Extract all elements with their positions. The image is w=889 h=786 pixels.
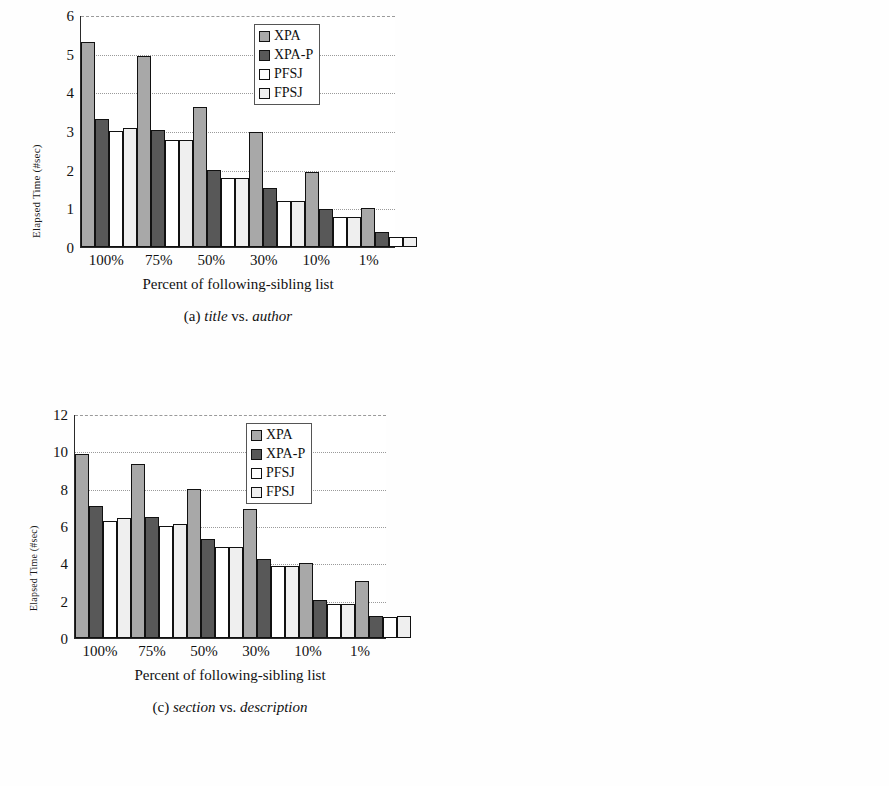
x-axis-title-a: Percent of following-sibling list <box>64 276 412 293</box>
y-tick-label: 2 <box>61 594 69 609</box>
x-tick-label: 30% <box>238 252 291 269</box>
bar <box>327 604 341 638</box>
x-tick-label: 50% <box>178 643 230 660</box>
legend-swatch-icon <box>251 449 262 460</box>
bar-groups <box>81 16 395 247</box>
bar <box>187 489 201 638</box>
bar <box>257 559 271 638</box>
y-tick-label: 1 <box>67 202 75 217</box>
x-axis-title-c: Percent of following-sibling list <box>58 667 402 684</box>
bar <box>117 518 131 638</box>
caption-prefix: (c) <box>153 699 173 715</box>
bar <box>173 524 187 638</box>
x-tick-label: 75% <box>126 643 178 660</box>
x-axis-ticks-a: 100%75%50%30%10%1% <box>80 252 395 269</box>
bar <box>235 178 249 247</box>
bar <box>369 616 383 638</box>
x-tick-label: 10% <box>282 643 334 660</box>
y-tick-label: 3 <box>67 125 75 140</box>
bar <box>151 130 165 247</box>
bar-group <box>75 415 131 638</box>
bar <box>95 119 109 247</box>
legend-item-pfsj: PFSJ <box>251 466 305 480</box>
y-tick-label: 6 <box>61 520 69 535</box>
y-axis-ticks-a: 0123456 <box>46 16 74 248</box>
bar <box>229 547 243 638</box>
legend-swatch-icon <box>251 430 262 441</box>
bar <box>305 172 319 247</box>
legend-item-pfsj: PFSJ <box>259 67 313 81</box>
legend-item-fpsj: FPSJ <box>259 86 313 100</box>
x-tick-label: 75% <box>133 252 186 269</box>
plot-area-c <box>74 415 386 639</box>
caption-left-term: title <box>204 308 227 324</box>
y-tick-label: 0 <box>67 241 75 256</box>
caption-c: (c) section vs. description <box>38 699 422 716</box>
legend-label: XPA <box>274 29 301 43</box>
plot-area-a <box>80 16 395 248</box>
bar <box>89 506 103 638</box>
bar <box>249 132 263 247</box>
chart-c: Elapsed Time (#sec) 024681012 100%75%50%… <box>28 415 428 715</box>
bar <box>103 521 117 638</box>
legend-item-xpa-p: XPA-P <box>259 48 313 62</box>
y-tick-label: 12 <box>53 408 68 423</box>
bar <box>201 539 215 638</box>
legend-label: XPA <box>266 428 293 442</box>
bar-group <box>187 415 243 638</box>
bar-groups <box>75 415 386 638</box>
bar <box>333 217 347 247</box>
bar <box>403 237 417 247</box>
legend-item-xpa: XPA <box>251 428 305 442</box>
bar-group <box>131 415 187 638</box>
x-tick-label: 30% <box>230 643 282 660</box>
bar <box>313 600 327 638</box>
bar-group <box>361 16 417 247</box>
caption-right-term: description <box>240 699 308 715</box>
legend-label: XPA-P <box>266 447 305 461</box>
x-tick-label: 10% <box>290 252 343 269</box>
legend-swatch-icon <box>251 487 262 498</box>
y-tick-label: 4 <box>67 86 75 101</box>
panel-a: Elapsed Time (#sec) 0123456 100%75%50%30… <box>0 0 445 393</box>
bar-group <box>355 415 411 638</box>
y-tick-label: 6 <box>67 9 75 24</box>
y-tick-label: 8 <box>61 482 69 497</box>
bar <box>109 131 123 247</box>
x-tick-label: 50% <box>185 252 238 269</box>
bar <box>299 563 313 638</box>
bar <box>285 566 299 638</box>
legend-c: XPAXPA-PPFSJFPSJ <box>246 423 312 504</box>
x-tick-label: 100% <box>80 252 133 269</box>
panel-b: Elapsed Time (#sec) 05101520 100%75%50%3… <box>445 0 889 393</box>
legend-label: XPA-P <box>274 48 313 62</box>
caption-vs: vs. <box>228 308 253 324</box>
x-tick-label: 1% <box>343 252 396 269</box>
x-axis-ticks-c: 100%75%50%30%10%1% <box>74 643 386 660</box>
bar <box>207 170 221 247</box>
legend-swatch-icon <box>259 69 270 80</box>
bar <box>355 581 369 638</box>
y-axis-ticks-c: 024681012 <box>40 415 68 639</box>
bar <box>263 188 277 247</box>
y-axis-title-c: Elapsed Time (#sec) <box>28 451 39 611</box>
bar <box>159 526 173 638</box>
bar <box>145 517 159 638</box>
legend-item-fpsj: FPSJ <box>251 485 305 499</box>
bar <box>291 201 305 247</box>
bar <box>131 464 145 638</box>
bar <box>389 237 403 247</box>
y-tick-label: 0 <box>61 632 69 647</box>
chart-a: Elapsed Time (#sec) 0123456 100%75%50%30… <box>28 16 428 326</box>
bar <box>123 128 137 247</box>
x-tick-label: 1% <box>334 643 386 660</box>
y-tick-label: 4 <box>61 557 69 572</box>
y-tick-label: 10 <box>53 445 68 460</box>
x-tick-label: 100% <box>74 643 126 660</box>
bar <box>81 42 95 247</box>
bar <box>383 617 397 638</box>
legend-swatch-icon <box>259 88 270 99</box>
bar <box>347 217 361 247</box>
bar <box>243 509 257 638</box>
y-axis-title-a: Elapsed Time (#sec) <box>30 68 42 238</box>
